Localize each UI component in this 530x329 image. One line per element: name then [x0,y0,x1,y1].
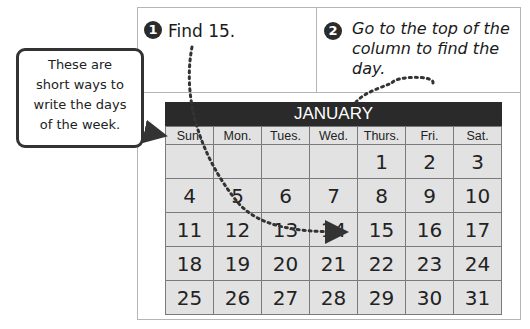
date-cell: 23 [406,247,454,281]
date-cell: 3 [454,145,502,179]
date-cell: 16 [406,213,454,247]
week-row: 18192021222324 [166,247,502,281]
date-cell: 13 [262,213,310,247]
weekday-label: Tues. [262,127,310,145]
week-row: 45678910 [166,179,502,213]
date-cell: 29 [358,281,406,315]
date-cell: 31 [454,281,502,315]
weekday-label: Thurs. [358,127,406,145]
date-cell: 24 [454,247,502,281]
date-cell: 22 [358,247,406,281]
date-cell: 15 [358,213,406,247]
date-cell: 14 [310,213,358,247]
date-cell: 5 [214,179,262,213]
date-cell [214,145,262,179]
weekday-label: Fri. [406,127,454,145]
date-cell: 20 [262,247,310,281]
date-cell: 25 [166,281,214,315]
calendar-month-title: JANUARY [165,102,502,126]
step-1: 1Find 15. [144,21,235,41]
date-cell [310,145,358,179]
date-cell: 2 [406,145,454,179]
callout-bubble: These are short ways to write the days o… [16,48,144,148]
date-cell: 27 [262,281,310,315]
callout-line: short ways to [19,75,141,95]
date-cell: 8 [358,179,406,213]
callout-line: of the week. [19,115,141,135]
calendar-grid: Sun. Mon. Tues. Wed. Thurs. Fri. Sat. 12… [165,126,502,315]
date-cell: 19 [214,247,262,281]
callout-line: write the days [19,95,141,115]
step-number-badge: 1 [144,21,162,39]
step-text: Go to the top of the column to find the … [328,19,518,79]
date-cell: 6 [262,179,310,213]
weekday-label: Mon. [214,127,262,145]
week-row: 123 [166,145,502,179]
weekday-row: Sun. Mon. Tues. Wed. Thurs. Fri. Sat. [166,127,502,145]
date-cell: 10 [454,179,502,213]
date-cell: 12 [214,213,262,247]
date-cell: 1 [358,145,406,179]
date-cell: 28 [310,281,358,315]
calendar: JANUARY Sun. Mon. Tues. Wed. Thurs. Fri.… [165,102,502,315]
date-cell [262,145,310,179]
date-cell: 18 [166,247,214,281]
panel-divider-horizontal [137,92,521,93]
weekday-label: Sun. [166,127,214,145]
date-cell: 30 [406,281,454,315]
date-cell: 4 [166,179,214,213]
date-cell: 17 [454,213,502,247]
date-cell: 7 [310,179,358,213]
panel-divider-vertical [316,7,317,93]
step-number-badge: 2 [324,22,342,40]
date-cell: 26 [214,281,262,315]
date-cell: 11 [166,213,214,247]
date-cell [166,145,214,179]
week-row: 25262728293031 [166,281,502,315]
weekday-label: Sat. [454,127,502,145]
callout-line: These are [19,55,141,75]
date-cell: 21 [310,247,358,281]
week-row: 11121314151617 [166,213,502,247]
step-2: 2 Go to the top of the column to find th… [328,19,518,79]
step-text: Find 15. [168,21,235,41]
date-cell: 9 [406,179,454,213]
weekday-label: Wed. [310,127,358,145]
